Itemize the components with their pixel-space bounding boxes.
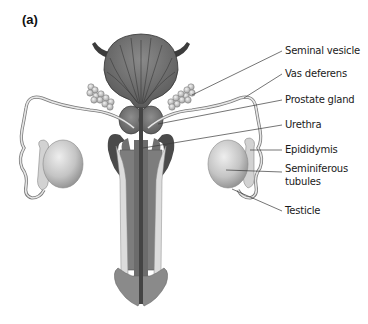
label-seminiferous-tubules-line2: tubules bbox=[285, 175, 348, 188]
label-testicle: Testicle bbox=[285, 204, 320, 217]
leader-seminal-vesicle bbox=[192, 51, 282, 95]
label-seminiferous-tubules: Seminiferous tubules bbox=[285, 162, 348, 188]
label-prostate-gland: Prostate gland bbox=[285, 93, 355, 106]
right-testicle bbox=[208, 140, 248, 188]
right-seminal-vesicle bbox=[168, 84, 195, 110]
urethra-tip bbox=[139, 268, 143, 304]
label-seminal-vesicle: Seminal vesicle bbox=[285, 44, 360, 57]
label-urethra: Urethra bbox=[285, 118, 321, 131]
label-seminiferous-tubules-line1: Seminiferous bbox=[285, 162, 348, 175]
male-reproductive-diagram: (a) Seminal vesicle Vas deferens Prostat… bbox=[0, 0, 368, 324]
leader-vas-deferens bbox=[244, 74, 282, 98]
left-testicle bbox=[43, 140, 83, 188]
left-seminal-vesicle bbox=[87, 84, 114, 110]
panel-label: (a) bbox=[22, 12, 38, 27]
label-vas-deferens: Vas deferens bbox=[285, 67, 347, 80]
label-epididymis: Epididymis bbox=[285, 143, 338, 156]
